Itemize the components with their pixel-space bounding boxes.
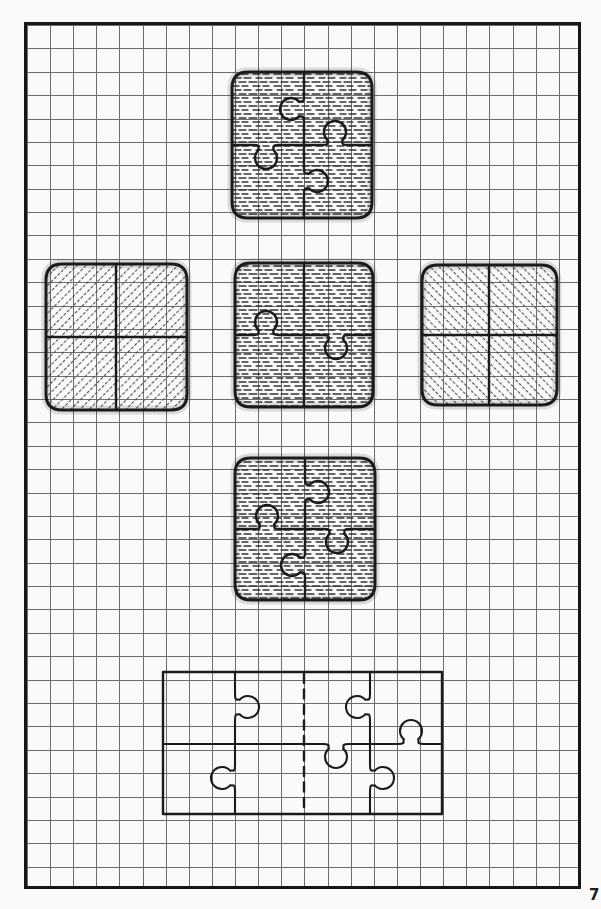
figures-layer: [46, 72, 557, 814]
flat-puzzle-template-divider: [211, 744, 235, 814]
top-puzzle-square: [232, 72, 372, 218]
flat-puzzle-template-divider: [235, 672, 259, 744]
left-hatched-square: [46, 264, 187, 410]
flat-puzzle-template-divider: [163, 720, 442, 768]
scanned-worksheet-page: 7: [0, 0, 601, 909]
page-corner-mark: 7: [589, 888, 599, 903]
center-puzzle-square: [235, 263, 373, 407]
bottom-puzzle-square: [235, 458, 375, 600]
puzzle-diagram-svg: [0, 0, 601, 909]
flat-puzzle-template-divider: [370, 744, 394, 814]
flat-puzzle-template: [163, 672, 442, 814]
flat-puzzle-template-divider: [346, 672, 370, 744]
right-hatched-square: [422, 265, 557, 405]
